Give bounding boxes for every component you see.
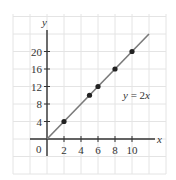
y-tick-label: 8: [37, 98, 43, 110]
x-tick-label: 10: [127, 144, 139, 156]
x-tick-label: 8: [112, 144, 118, 156]
equation-eq: = 2: [128, 89, 145, 101]
line-chart: 246810 48121620 x y 0 y = 2x: [0, 0, 176, 180]
x-tick-label: 6: [95, 144, 101, 156]
equation-x: x: [144, 89, 150, 101]
origin-label: 0: [36, 143, 42, 155]
y-tick-label: 4: [37, 116, 43, 128]
y-tick-label: 12: [31, 81, 42, 93]
data-point: [112, 66, 117, 71]
data-point: [129, 49, 134, 54]
y-axis-label: y: [41, 16, 47, 28]
y-tick-label: 16: [31, 63, 43, 75]
x-tick-label: 2: [61, 144, 67, 156]
data-point: [87, 93, 92, 98]
data-point: [95, 84, 100, 89]
x-tick-label: 4: [78, 144, 84, 156]
equation-label: y = 2x: [122, 89, 150, 101]
x-axis-label: x: [156, 133, 162, 145]
y-tick-label: 20: [31, 46, 43, 58]
data-point: [61, 119, 66, 124]
